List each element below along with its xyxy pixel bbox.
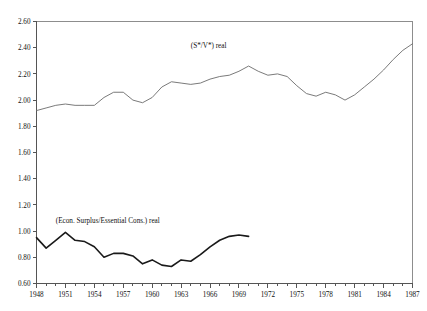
y-axis-tick-label: 1.20: [18, 202, 31, 210]
y-axis-tick-label: 2.40: [18, 44, 31, 52]
x-axis-tick-label: 1975: [290, 291, 305, 299]
y-axis-tick-label: 1.60: [18, 149, 31, 157]
y-axis-tick-label: 2.00: [18, 97, 31, 105]
plot-frame: [37, 22, 413, 284]
y-axis-tick-label: 0.80: [18, 254, 31, 262]
y-axis: 2.602.402.202.001.801.601.401.201.000.80…: [18, 18, 37, 288]
x-axis-tick-label: 1987: [405, 291, 420, 299]
plot-frame-rect: [37, 22, 413, 284]
x-axis-tick-label: 1951: [58, 291, 73, 299]
series-label-2: (Econ. Surplus/Essential Cons.) real: [56, 217, 160, 225]
y-axis-tick-label: 1.80: [18, 123, 31, 131]
x-axis-tick-label: 1957: [116, 291, 131, 299]
x-axis-tick-label: 1984: [376, 291, 391, 299]
x-axis-tick-label: 1948: [29, 291, 44, 299]
x-axis-tick-label: 1966: [203, 291, 218, 299]
series-label-1: (S*/V*) real: [191, 42, 227, 50]
series-line-2: [37, 232, 249, 266]
series-annotations: (S*/V*) real(Econ. Surplus/Essential Con…: [56, 42, 227, 226]
x-axis-tick-label: 1963: [174, 291, 189, 299]
y-axis-tick-label: 2.20: [18, 71, 31, 79]
series-line-1: [37, 44, 413, 111]
chart-container: 2.602.402.202.001.801.601.401.201.000.80…: [0, 0, 427, 311]
x-axis-tick-label: 1969: [232, 291, 247, 299]
x-axis-tick-label: 1981: [347, 291, 362, 299]
y-axis-tick-label: 1.40: [18, 175, 31, 183]
x-axis: 1948195119541957196019631966196919721975…: [29, 284, 420, 299]
y-axis-tick-label: 0.60: [18, 280, 31, 288]
y-axis-tick-label: 2.60: [18, 18, 31, 26]
series-layer: [37, 44, 413, 267]
x-axis-tick-label: 1978: [319, 291, 334, 299]
x-axis-tick-label: 1960: [145, 291, 160, 299]
x-axis-tick-label: 1954: [87, 291, 102, 299]
line-chart: 2.602.402.202.001.801.601.401.201.000.80…: [0, 0, 427, 311]
x-axis-tick-label: 1972: [261, 291, 276, 299]
y-axis-tick-label: 1.00: [18, 228, 31, 236]
